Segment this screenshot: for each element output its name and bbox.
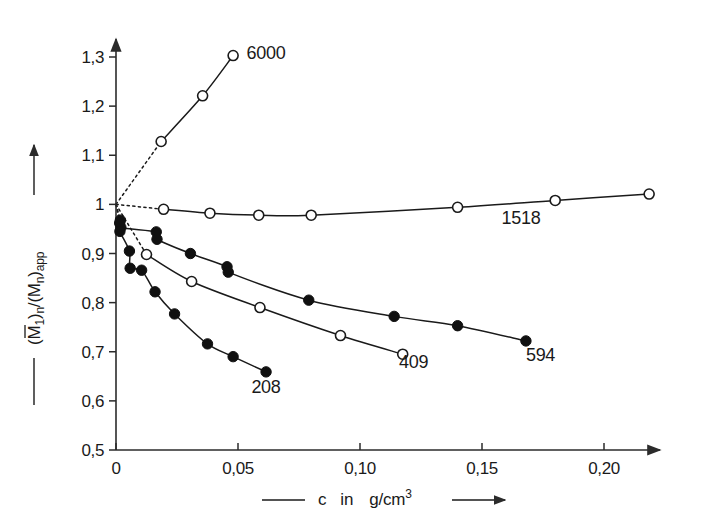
extrapolation-line-1518 (116, 204, 164, 209)
series-label-208: 208 (251, 377, 280, 397)
data-point-6000 (156, 136, 166, 146)
y-tick-label: 0,7 (82, 343, 104, 362)
x-axis-label: cing/cm3 (318, 487, 412, 509)
y-axis-label: (M1)n/(Mn)app (25, 251, 47, 345)
y-tick-label: 1,1 (82, 146, 104, 165)
data-markers-group (114, 51, 654, 378)
curve-208 (119, 223, 266, 372)
y-tick-label: 1,2 (82, 97, 104, 116)
curve-1518 (164, 194, 650, 216)
extrapolation-line-6000 (116, 141, 161, 204)
data-curves-group (118, 56, 649, 372)
data-point-409 (187, 277, 197, 287)
data-point-594 (304, 295, 314, 305)
x-tick-label: 0 (111, 459, 120, 478)
data-point-1518 (453, 202, 463, 212)
data-point-208 (115, 226, 125, 236)
data-point-1518 (205, 208, 215, 218)
series-label-594: 594 (526, 345, 555, 365)
x-tick-label: 0,15 (466, 459, 498, 478)
series-label-409: 409 (399, 352, 428, 372)
series-label-1518: 1518 (502, 208, 541, 228)
data-point-6000 (198, 91, 208, 101)
data-point-1518 (159, 204, 169, 214)
y-tick-label: 1,3 (82, 48, 104, 67)
data-point-208 (228, 351, 238, 361)
data-point-1518 (254, 210, 264, 220)
figure-container: 0,50,60,70,80,911,11,21,300,050,100,150,… (0, 0, 715, 524)
data-point-208 (261, 367, 271, 377)
axes-group (109, 39, 660, 450)
data-point-6000 (228, 51, 238, 61)
data-point-594 (152, 234, 162, 244)
data-point-208 (202, 339, 212, 349)
series-label-6000: 6000 (247, 43, 286, 63)
x-tick-label: 0,20 (588, 459, 620, 478)
y-tick-label: 0,6 (82, 392, 104, 411)
data-point-208 (136, 265, 146, 275)
data-point-594 (185, 248, 195, 258)
data-point-594 (389, 311, 399, 321)
curve-6000 (161, 56, 233, 142)
y-tick-label: 0,5 (82, 441, 104, 460)
chart-canvas: 0,50,60,70,80,911,11,21,300,050,100,150,… (0, 0, 715, 524)
y-tick-label: 1 (95, 195, 104, 214)
curve-409 (147, 254, 403, 354)
data-point-409 (142, 249, 152, 259)
y-tick-label: 0,9 (82, 245, 104, 264)
data-point-1518 (550, 195, 560, 205)
x-tick-label: 0,10 (344, 459, 376, 478)
data-point-208 (150, 287, 160, 297)
data-point-208 (125, 263, 135, 273)
series-labels-group: 60001518594409208 (247, 43, 556, 396)
data-point-208 (124, 246, 134, 256)
data-point-594 (452, 321, 462, 331)
data-point-409 (335, 331, 345, 341)
curve-594 (118, 220, 526, 341)
y-tick-label: 0,8 (82, 294, 104, 313)
data-point-208 (169, 309, 179, 319)
data-point-1518 (306, 210, 316, 220)
data-point-1518 (644, 189, 654, 199)
data-point-409 (255, 303, 265, 313)
x-tick-label: 0,05 (222, 459, 254, 478)
y-axis-label-group: (M1)n/(Mn)app (25, 145, 47, 405)
data-point-594 (223, 267, 233, 277)
tick-labels-group: 0,50,60,70,80,911,11,21,300,050,100,150,… (82, 48, 620, 478)
